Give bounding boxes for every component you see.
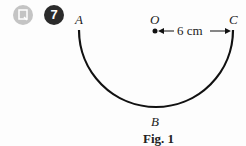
label-b: B bbox=[151, 114, 159, 129]
arrow-left-icon bbox=[158, 28, 164, 34]
figure-caption: Fig. 1 bbox=[143, 131, 174, 146]
label-o: O bbox=[150, 12, 160, 27]
radius-measurement: 6 cm bbox=[177, 23, 203, 38]
label-c: C bbox=[229, 12, 238, 27]
semicircle-arc bbox=[79, 30, 233, 107]
label-a: A bbox=[74, 12, 83, 27]
semicircle-figure: 6 cm A O C B Fig. 1 bbox=[0, 0, 246, 146]
arrow-right-icon bbox=[225, 28, 231, 34]
center-point-o bbox=[153, 29, 158, 34]
